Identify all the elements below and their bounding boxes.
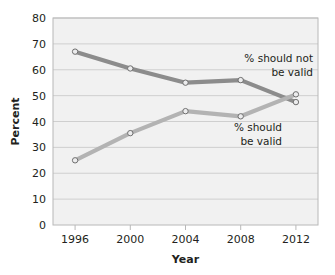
annotation-should-be-valid-line-1: % should [234,121,282,133]
x-axis-tick-marks [75,225,296,230]
x-axis-tick-label: 1996 [61,233,89,246]
annotation-should-be-valid-line-2: be valid [240,135,282,147]
data-point-marker [183,80,188,85]
y-axis-tick-label: 0 [39,219,46,232]
y-axis-tick-label: 80 [32,12,46,25]
y-axis-tick-label: 40 [32,116,46,129]
data-point-marker [72,49,77,54]
data-point-marker [183,108,188,113]
data-point-marker [238,114,243,119]
line-chart: 01020304050607080 19962000200420082012 Y… [0,0,335,275]
x-axis-tick-label: 2000 [116,233,144,246]
data-point-marker [293,99,298,104]
y-axis-tick-label: 30 [32,141,46,154]
y-axis-tick-label: 20 [32,167,46,180]
y-axis-tick-label: 50 [32,90,46,103]
data-point-marker [128,66,133,71]
x-axis-tick-label: 2004 [172,233,200,246]
x-axis-title: Year [171,253,200,266]
data-point-marker [128,130,133,135]
y-axis-tick-label: 70 [32,38,46,51]
chart-container: 01020304050607080 19962000200420082012 Y… [0,0,335,275]
y-axis-tick-label: 60 [32,64,46,77]
annotation-should-not-be-valid-line-1: % should not [244,52,313,64]
y-axis-tick-labels: 01020304050607080 [32,12,46,232]
data-point-marker [293,92,298,97]
annotation-should-not-be-valid-line-2: be valid [271,66,313,78]
y-axis-tick-label: 10 [32,193,46,206]
data-point-marker [72,158,77,163]
x-axis-tick-label: 2012 [282,233,310,246]
y-axis-title: Percent [9,97,22,145]
x-axis-tick-label: 2008 [227,233,255,246]
x-axis-tick-labels: 19962000200420082012 [61,233,310,246]
data-point-marker [238,77,243,82]
